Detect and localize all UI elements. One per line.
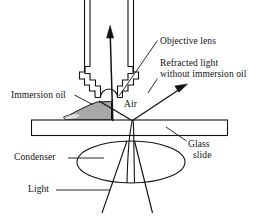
objective-lens-barrel (80, 0, 139, 98)
refracted-light-ray-arrow (133, 84, 188, 121)
label-condenser: Condenser (14, 152, 56, 163)
label-objective-lens: Objective lens (160, 36, 216, 47)
label-refracted-light-line1: Refracted light (160, 58, 218, 69)
label-glass-slide-line2: slide (193, 150, 211, 161)
label-glass-slide-line1: Glass (188, 139, 210, 150)
label-light: Light (28, 184, 49, 195)
leader-refracted-light (148, 79, 158, 94)
condenser-ellipse (77, 141, 185, 183)
leader-immersion-oil (75, 95, 93, 105)
lens-dome (101, 89, 118, 98)
label-refracted-light-line2: without immersion oil (160, 69, 247, 80)
label-immersion-oil: Immersion oil (11, 90, 66, 101)
label-air: Air (124, 99, 137, 110)
oil-immersion-diagram: Objective lens Refracted light without i… (0, 0, 261, 221)
